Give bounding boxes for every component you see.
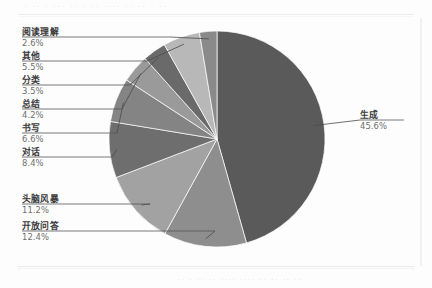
label-dialogue-name: 对话 [22,147,44,157]
label-other-name: 其他 [22,51,44,61]
label-dialogue[interactable]: 对话 8.4% [22,147,44,168]
label-classification-name: 分类 [22,75,44,85]
label-brainstorming-name: 头脑风暴 [22,194,59,204]
label-classification[interactable]: 分类 3.5% [22,75,44,96]
pie-chart: 阅读理解 2.6% 其他 5.5% 分类 3.5% 总结 4.2% 书写 6.6… [0,0,432,288]
label-reading-comprehension[interactable]: 阅读理解 2.6% [22,27,59,48]
label-other-value: 5.5% [22,62,44,72]
label-brainstorming-value: 11.2% [22,205,59,215]
label-writing-name: 书写 [22,123,44,133]
label-generation-value: 45.6% [360,121,387,131]
label-brainstorming[interactable]: 头脑风暴 11.2% [22,194,59,215]
pie-chart-svg [0,0,432,288]
scanned-page: · ·· · ··· ·· · ·· ···· ·· ·· · ·· ·· · … [0,0,432,288]
label-open-qa-value: 12.4% [22,232,59,242]
label-dialogue-value: 8.4% [22,158,44,168]
label-summarization-value: 4.2% [22,110,44,120]
label-other[interactable]: 其他 5.5% [22,51,44,72]
label-generation-name: 生成 [360,110,387,120]
label-open-qa-name: 开放问答 [22,221,59,231]
label-classification-value: 3.5% [22,86,44,96]
label-writing[interactable]: 书写 6.6% [22,123,44,144]
label-generation[interactable]: 生成 45.6% [360,110,387,131]
label-open-qa[interactable]: 开放问答 12.4% [22,221,59,242]
label-reading-comprehension-value: 2.6% [22,38,59,48]
label-reading-comprehension-name: 阅读理解 [22,27,59,37]
pie-slices [109,31,325,247]
label-summarization[interactable]: 总结 4.2% [22,99,44,120]
label-summarization-name: 总结 [22,99,44,109]
label-writing-value: 6.6% [22,134,44,144]
